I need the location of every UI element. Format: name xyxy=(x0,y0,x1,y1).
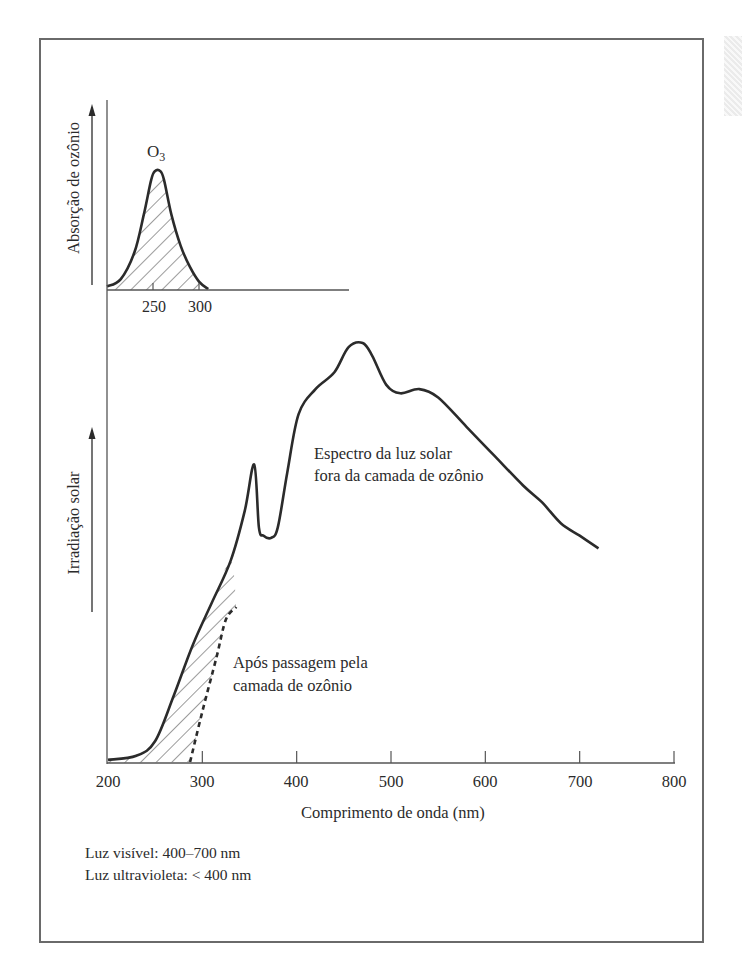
main-x-tick-labels: 200 300 400 500 600 700 800 xyxy=(96,772,687,791)
main-y-arrowhead-icon xyxy=(89,427,96,439)
main-y-label: Irradiação solar xyxy=(64,471,83,575)
wavelength-notes: Luz visível: 400–700 nm Luz ultravioleta… xyxy=(85,842,251,886)
tick-label: 500 xyxy=(379,772,404,791)
outside-ozone-annotation-line1: Espectro da luz solar xyxy=(314,444,452,463)
tick-label: 600 xyxy=(473,772,498,791)
chart-svg: Absorção de ozônio 250 300 O3 Irradiação… xyxy=(0,0,744,963)
visible-light-note: Luz visível: 400–700 nm xyxy=(85,842,251,864)
inset-y-label: Absorção de ozônio xyxy=(64,122,83,254)
tick-label: 200 xyxy=(96,772,121,791)
after-ozone-annotation-line1: Após passagem pela xyxy=(233,653,368,672)
inset-tick-label-250: 250 xyxy=(142,298,166,315)
inset-tick-label-300: 300 xyxy=(188,298,212,315)
tick-label: 800 xyxy=(662,772,687,791)
inset-y-arrowhead-icon xyxy=(89,104,96,116)
inset-series-label: O3 xyxy=(147,142,165,164)
figure: Absorção de ozônio 250 300 O3 Irradiação… xyxy=(0,0,744,963)
outside-ozone-annotation-line2: fora da camada de ozônio xyxy=(314,466,484,485)
after-ozone-annotation-line2: camada de ozônio xyxy=(233,676,352,695)
tick-label: 700 xyxy=(568,772,593,791)
ultraviolet-light-note: Luz ultravioleta: < 400 nm xyxy=(85,864,251,886)
main-x-ticks xyxy=(202,751,674,763)
main-x-label: Comprimento de onda (nm) xyxy=(301,803,485,822)
tick-label: 300 xyxy=(190,772,215,791)
tick-label: 400 xyxy=(284,772,309,791)
